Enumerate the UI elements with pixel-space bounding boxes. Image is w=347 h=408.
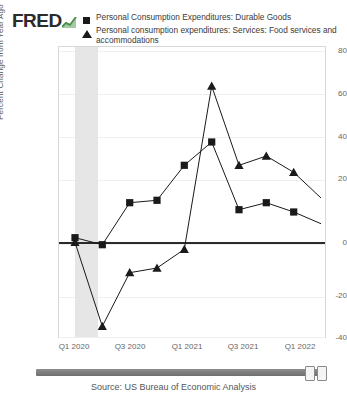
- gridline: [59, 337, 325, 338]
- source-note: Source: US Bureau of Economic Analysis: [0, 382, 347, 392]
- legend-label: Personal consumption expenditures: Servi…: [96, 25, 337, 45]
- x-axis-tick: Q3 2021: [213, 342, 273, 351]
- x-axis-tick: Q1 2021: [157, 342, 217, 351]
- chart-plot-area: [58, 46, 326, 338]
- legend-item: Personal consumption expenditures: Servi…: [82, 25, 337, 45]
- legend-item: Personal Consumption Expenditures: Durab…: [82, 12, 337, 24]
- line-chart-icon: [62, 14, 77, 25]
- range-handle-right[interactable]: [317, 366, 327, 381]
- date-range-slider[interactable]: [36, 366, 326, 378]
- chart-header: FRED Personal Consumption Expenditures: …: [0, 0, 347, 42]
- slider-track[interactable]: [36, 369, 326, 376]
- x-axis-tick: Q3 2020: [100, 342, 160, 351]
- triangle-marker-icon: [82, 27, 92, 37]
- x-axis-tick: Q1 2022: [270, 342, 330, 351]
- square-marker-icon: [82, 14, 92, 24]
- y-axis-title: Percent Change from Year Ago: [0, 0, 5, 120]
- x-axis-tick: Q1 2020: [44, 342, 104, 351]
- series-lines: [59, 47, 325, 337]
- fred-logo: FRED: [12, 10, 62, 32]
- range-handle-left[interactable]: [305, 366, 315, 381]
- chart-legend: Personal Consumption Expenditures: Durab…: [82, 12, 337, 46]
- legend-label: Personal Consumption Expenditures: Durab…: [96, 12, 291, 22]
